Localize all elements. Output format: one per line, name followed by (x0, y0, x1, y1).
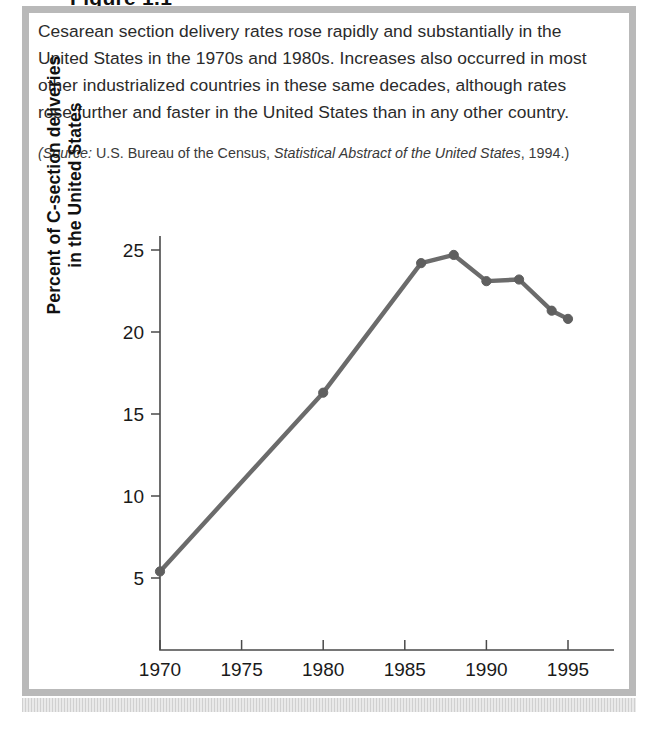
x-tick-label: 1975 (220, 659, 262, 680)
data-point (449, 250, 458, 259)
source-year: , 1994.) (521, 145, 569, 161)
source-work-title: Statistical Abstract of the United State… (274, 145, 521, 161)
data-line (160, 255, 568, 572)
figure-container: Figure 1.1 Cesarean section delivery rat… (0, 0, 661, 738)
data-point (155, 567, 164, 576)
x-tick-label: 1985 (384, 659, 426, 680)
x-tick-label: 1970 (139, 659, 181, 680)
y-axis-tick-labels: 510152025 (123, 240, 144, 589)
y-tick-label: 5 (133, 568, 144, 589)
x-tick-label: 1980 (302, 659, 344, 680)
y-tick-label: 10 (123, 486, 144, 507)
chart-canvas: 510152025 197019751980198519901995 (0, 218, 661, 688)
y-axis-ticks (151, 250, 160, 578)
data-point (417, 259, 426, 268)
data-point (514, 275, 523, 284)
data-point (547, 306, 556, 315)
data-point-markers (155, 250, 572, 576)
caption-source: (Source: U.S. Bureau of the Census, Stat… (38, 143, 604, 163)
line-chart: 510152025 197019751980198519901995 (0, 218, 661, 688)
x-tick-label: 1995 (547, 659, 589, 680)
caption-block: Cesarean section delivery rates rose rap… (38, 18, 604, 163)
y-tick-label: 20 (123, 322, 144, 343)
source-publisher: U.S. Bureau of the Census, (92, 145, 274, 161)
y-tick-label: 15 (123, 404, 144, 425)
caption-paragraph: Cesarean section delivery rates rose rap… (38, 18, 604, 126)
y-tick-label: 25 (123, 240, 144, 261)
x-axis-tick-labels: 197019751980198519901995 (139, 659, 589, 680)
x-axis-ticks (160, 640, 568, 650)
x-tick-label: 1990 (465, 659, 507, 680)
page-bottom-band (22, 698, 636, 712)
chart-axes (160, 236, 614, 650)
data-point (563, 314, 572, 323)
data-point (482, 277, 491, 286)
data-point (319, 388, 328, 397)
